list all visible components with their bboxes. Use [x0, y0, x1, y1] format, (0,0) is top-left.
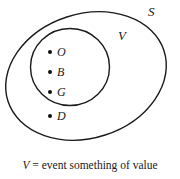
set-label-v: V — [118, 29, 126, 42]
venn-diagram-canvas — [0, 0, 180, 150]
caption-equals: = — [32, 159, 39, 171]
element-point-g: G — [48, 86, 66, 98]
point-dot-icon — [48, 114, 52, 118]
point-label: O — [57, 46, 66, 58]
set-v-outline — [31, 29, 110, 106]
set-label-s: S — [148, 5, 155, 18]
element-point-b: B — [48, 66, 64, 78]
set-s-outline — [0, 0, 180, 150]
point-label: B — [57, 66, 64, 78]
caption-variable: V — [22, 159, 29, 171]
point-dot-icon — [48, 50, 52, 54]
point-dot-icon — [48, 70, 52, 74]
point-dot-icon — [48, 90, 52, 94]
figure-caption: V = event something of value — [0, 158, 180, 172]
caption-description: event something of value — [42, 159, 158, 171]
point-label: G — [57, 86, 66, 98]
point-label: D — [57, 110, 66, 122]
venn-diagram-figure: S V O B G D V = event something of value — [0, 0, 180, 179]
element-point-d: D — [48, 110, 66, 122]
element-point-o: O — [48, 46, 66, 58]
